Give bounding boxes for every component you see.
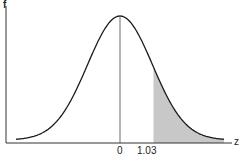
tick-label-1-03: 1.03 — [137, 146, 156, 156]
normal-distribution-chart — [0, 0, 244, 166]
tick-label-0: 0 — [117, 146, 123, 156]
x-axis-label: z — [234, 137, 239, 147]
y-axis-label: f — [3, 0, 6, 10]
shaded-tail-area — [153, 67, 224, 143]
